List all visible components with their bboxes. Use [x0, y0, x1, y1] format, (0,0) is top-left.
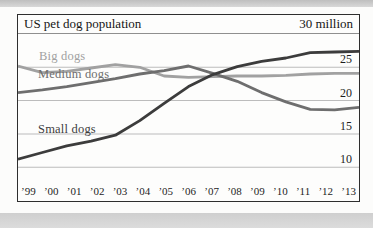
series-label-small-dogs: Small dogs: [38, 123, 96, 136]
y-axis-max-label: 30 million: [299, 15, 353, 33]
x-axis-labels: ’99’00’01’02’03’04’05’06’07’08’09’10’11’…: [18, 185, 359, 197]
chart-header: US pet dog population 30 million: [18, 15, 359, 34]
screenshot-root: US pet dog population 30 million 2520151…: [0, 0, 373, 228]
page-margin-top: [0, 0, 373, 7]
series-label-medium-dogs: Medium dogs: [38, 68, 109, 81]
x-tick-label: ’05: [158, 185, 173, 197]
chart-title: US pet dog population: [24, 15, 141, 33]
x-tick-label: ’11: [296, 185, 310, 197]
y-tick-label-25: 25: [340, 53, 352, 66]
x-tick-label: ’03: [113, 185, 128, 197]
y-tick-label-10: 10: [340, 153, 352, 166]
y-tick-label-20: 20: [340, 87, 352, 100]
x-tick-label: ’13: [341, 185, 356, 197]
x-tick-label: ’07: [204, 185, 219, 197]
x-tick-label: ’04: [136, 185, 151, 197]
y-tick-label-15: 15: [340, 120, 352, 133]
plot-area: 25201510 Big dogs Medium dogs Small dogs…: [18, 34, 359, 200]
x-tick-label: ’01: [67, 185, 82, 197]
x-tick-label: ’09: [250, 185, 265, 197]
series-label-big-dogs: Big dogs: [39, 50, 85, 63]
x-tick-label: ’02: [90, 185, 105, 197]
page-margin-bottom: [0, 213, 373, 228]
x-tick-label: ’06: [181, 185, 196, 197]
chart-frame: US pet dog population 30 million 2520151…: [17, 14, 360, 202]
x-tick-label: ’08: [227, 185, 242, 197]
x-tick-label: ’12: [318, 185, 333, 197]
x-tick-label: ’10: [273, 185, 288, 197]
x-tick-label: ’00: [44, 185, 59, 197]
x-tick-label: ’99: [21, 185, 36, 197]
